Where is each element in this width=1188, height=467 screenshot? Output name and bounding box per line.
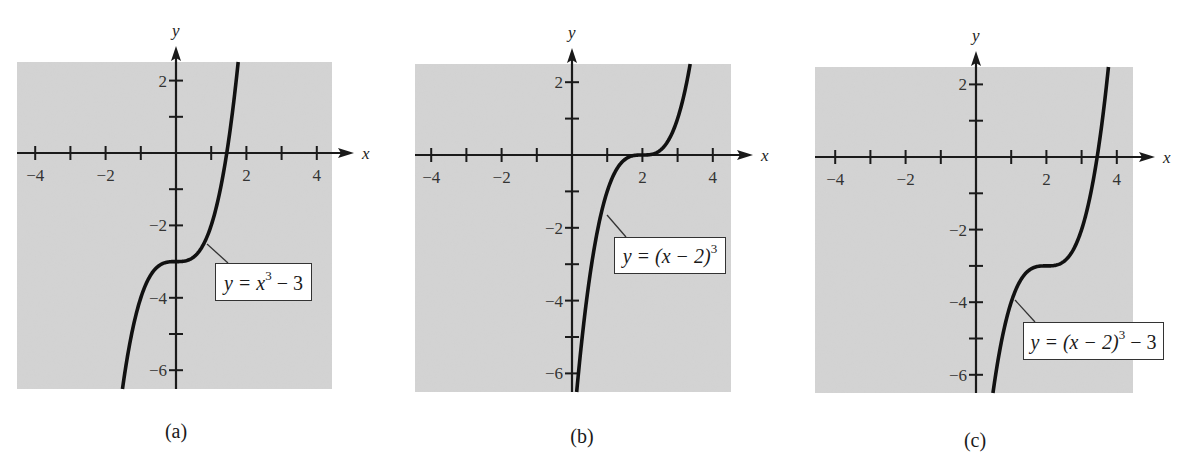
y-tick-label: −6 xyxy=(949,366,967,385)
y-tick-label: −6 xyxy=(149,361,167,380)
panel-a: xy−4−2242−2−4−6 xyxy=(17,21,370,389)
y-axis-label: y xyxy=(170,21,180,40)
y-tick-label: −4 xyxy=(949,293,968,312)
x-tick-label: −4 xyxy=(422,168,441,187)
x-tick-label: −4 xyxy=(26,166,45,185)
eq-c-sup: 3 xyxy=(1119,327,1126,342)
x-tick-label: −2 xyxy=(897,170,915,189)
eq-b-pre: y = (x − 2) xyxy=(623,245,711,267)
x-tick-label: 4 xyxy=(709,168,718,187)
y-axis-label: y xyxy=(566,23,576,42)
y-axis-label: y xyxy=(970,26,980,45)
x-axis-label: x xyxy=(1162,148,1171,167)
caption-a: (a) xyxy=(165,420,187,443)
eq-a-pre: y = x xyxy=(224,271,265,293)
eq-c-post: − 3 xyxy=(1125,330,1156,352)
y-tick-label: 2 xyxy=(959,75,968,94)
y-tick-label: 2 xyxy=(159,72,168,91)
equation-label-c: y = (x − 2)3 − 3 xyxy=(1023,322,1164,360)
y-tick-label: 2 xyxy=(555,73,564,92)
y-tick-label: −2 xyxy=(949,221,967,240)
eq-b-sup: 3 xyxy=(711,241,718,256)
x-tick-label: 2 xyxy=(638,168,647,187)
y-tick-label: −6 xyxy=(545,364,563,383)
y-tick-label: −2 xyxy=(149,216,167,235)
panel-b: xy−4−2242−2−4−6 xyxy=(415,23,769,392)
x-tick-label: 4 xyxy=(1113,170,1122,189)
x-tick-label: −4 xyxy=(826,170,845,189)
x-tick-label: −2 xyxy=(493,168,511,187)
equation-label-b: y = (x − 2)3 xyxy=(614,237,726,274)
y-tick-label: −2 xyxy=(545,219,563,238)
x-tick-label: 2 xyxy=(1042,170,1051,189)
x-tick-label: 4 xyxy=(313,166,322,185)
eq-c-pre: y = (x − 2) xyxy=(1031,330,1119,352)
x-tick-label: −2 xyxy=(97,166,115,185)
equation-label-a: y = x3 − 3 xyxy=(215,263,312,301)
x-tick-label: 2 xyxy=(242,166,251,185)
caption-c: (c) xyxy=(964,429,986,452)
x-axis-label: x xyxy=(760,146,769,165)
y-tick-label: −4 xyxy=(545,292,564,311)
figure-canvas: xy−4−2242−2−4−6 xy−4−2242−2−4−6 xy−4−224… xyxy=(0,0,1188,467)
caption-b: (b) xyxy=(570,425,593,448)
y-tick-label: −4 xyxy=(149,289,168,308)
x-axis-label: x xyxy=(361,144,370,163)
eq-a-post: − 3 xyxy=(272,271,303,293)
eq-a-sup: 3 xyxy=(265,268,272,283)
